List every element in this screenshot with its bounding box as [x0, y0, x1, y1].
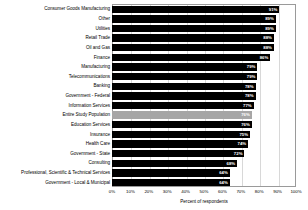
bar-row: Professional, Scientific & Technical Ser… [0, 168, 308, 178]
category-label: Telecommunications [4, 72, 110, 81]
category-label: Professional, Scientific & Technical Ser… [4, 168, 110, 177]
bar-track: 64% [112, 169, 296, 176]
x-tick-label: 60% [218, 188, 227, 195]
bar: 64% [112, 179, 230, 186]
bar: 72% [112, 150, 244, 157]
bar-track: 91% [112, 6, 296, 13]
bar-row: Government - Local & Municipal64% [0, 177, 308, 187]
category-label: Consulting [4, 158, 110, 167]
bar-track: 89% [112, 15, 296, 22]
bar-row: Information Services77% [0, 100, 308, 110]
bar: 86% [112, 54, 270, 61]
bar-value-label: 74% [238, 140, 247, 147]
bar: 88% [112, 34, 274, 41]
bar-row: Manufacturing79% [0, 62, 308, 72]
bar-row: Health Care74% [0, 139, 308, 149]
category-label: Government - Local & Municipal [4, 178, 110, 187]
x-tick-label: 10% [126, 188, 135, 195]
bar-value-label: 75% [239, 131, 248, 138]
bar: 76% [112, 121, 252, 128]
bar-track: 88% [112, 34, 296, 41]
bar-track: 72% [112, 150, 296, 157]
horizontal-bar-chart: Consumer Goods Manufacturing91%Other89%U… [0, 0, 308, 210]
bar: 88% [112, 44, 274, 51]
x-tick-label: 70% [236, 188, 245, 195]
bar-value-label: 78% [245, 92, 254, 99]
bar-value-label: 64% [219, 169, 228, 176]
bar-value-label: 89% [265, 25, 274, 32]
bar-track: 74% [112, 140, 296, 147]
bar-value-label: 64% [219, 179, 228, 186]
bar: 68% [112, 160, 237, 167]
bar-value-label: 79% [247, 73, 256, 80]
bar: 89% [112, 15, 276, 22]
bar-row: Consulting68% [0, 158, 308, 168]
bar: 78% [112, 92, 256, 99]
category-label: Utilities [4, 24, 110, 33]
bar: 79% [112, 73, 257, 80]
bar-track: 88% [112, 44, 296, 51]
bar-row: Retail Trade88% [0, 33, 308, 43]
bar-track: 76% [112, 111, 296, 118]
bar-track: 79% [112, 73, 296, 80]
bar-track: 64% [112, 179, 296, 186]
category-label: Insurance [4, 130, 110, 139]
x-tick-label: 40% [181, 188, 190, 195]
bar-track: 78% [112, 83, 296, 90]
category-label: Manufacturing [4, 62, 110, 71]
bar-track: 75% [112, 131, 296, 138]
bar-value-label: 91% [269, 6, 278, 13]
bar-value-label: 79% [247, 63, 256, 70]
bar-value-label: 77% [243, 102, 252, 109]
bar-value-label: 89% [265, 15, 274, 22]
bar: 89% [112, 25, 276, 32]
bar-row: Banking78% [0, 81, 308, 91]
bar-row: Consumer Goods Manufacturing91% [0, 4, 308, 14]
category-label: Oil and Gas [4, 43, 110, 52]
bar: 64% [112, 169, 230, 176]
category-label: Government - State [4, 149, 110, 158]
bar-row: Education Services76% [0, 120, 308, 130]
bar-value-label: 88% [263, 34, 272, 41]
bar-row: Government - State72% [0, 148, 308, 158]
category-label: Education Services [4, 120, 110, 129]
bar-value-label: 76% [241, 111, 250, 118]
bar-row: Telecommunications79% [0, 71, 308, 81]
bar-row: Insurance75% [0, 129, 308, 139]
x-tick-label: 30% [163, 188, 172, 195]
bar-value-label: 76% [241, 121, 250, 128]
x-tick-label: 90% [273, 188, 282, 195]
category-label: Health Care [4, 139, 110, 148]
bar-row: Oil and Gas88% [0, 43, 308, 53]
bar-track: 89% [112, 25, 296, 32]
bar-row: Finance86% [0, 52, 308, 62]
bar-track: 68% [112, 160, 296, 167]
bar-track: 86% [112, 54, 296, 61]
category-label: Banking [4, 81, 110, 90]
x-axis-ticks: 0%10%20%30%40%50%60%70%80%90%100% [112, 188, 296, 198]
bar-value-label: 68% [227, 160, 236, 167]
bar: 78% [112, 83, 256, 90]
bar-rows: Consumer Goods Manufacturing91%Other89%U… [0, 4, 308, 187]
category-label: Government - Federal [4, 91, 110, 100]
x-tick-label: 100% [290, 188, 301, 195]
bar-value-label: 88% [263, 44, 272, 51]
bar-highlight: 76% [112, 111, 252, 118]
x-axis-title: Percent of respondents [112, 198, 296, 206]
x-tick-label: 0% [109, 188, 115, 195]
bar-track: 79% [112, 63, 296, 70]
bar-track: 76% [112, 121, 296, 128]
category-label: Retail Trade [4, 33, 110, 42]
category-label: Entire Study Population [4, 110, 110, 119]
bar-value-label: 72% [234, 150, 243, 157]
bar-value-label: 86% [260, 54, 269, 61]
bar: 75% [112, 131, 250, 138]
bar: 74% [112, 140, 248, 147]
category-label: Consumer Goods Manufacturing [4, 4, 110, 13]
bar: 77% [112, 102, 254, 109]
bar-row: Entire Study Population76% [0, 110, 308, 120]
category-label: Other [4, 14, 110, 23]
category-label: Information Services [4, 101, 110, 110]
category-label: Finance [4, 53, 110, 62]
bar-row: Government - Federal78% [0, 91, 308, 101]
